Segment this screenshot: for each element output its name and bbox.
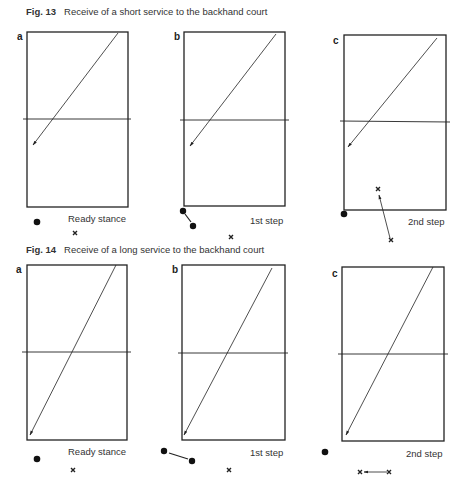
court-half <box>27 265 127 440</box>
player-start <box>161 448 167 454</box>
shuttle-arrow <box>30 265 116 435</box>
shuttle-arrow <box>33 33 118 145</box>
fig-14-panel-b <box>161 265 288 472</box>
court-half <box>344 35 446 210</box>
opponent-x-icon <box>376 187 380 191</box>
player-start <box>180 208 186 214</box>
fig-14-panel-c <box>322 267 448 474</box>
player-position <box>322 449 329 456</box>
opponent-x-icon <box>387 470 391 474</box>
opponent-x-icon <box>71 468 75 472</box>
opponent-x-icon <box>229 235 233 239</box>
player-position <box>34 219 41 226</box>
step-arrow <box>185 214 191 222</box>
fig-13-panel-c <box>340 35 450 242</box>
opponent-x-icon <box>73 231 77 235</box>
fig-13-panel-b <box>180 32 289 239</box>
fig-13-panel-a <box>23 32 131 235</box>
court-half <box>27 32 128 207</box>
court-half <box>182 265 285 440</box>
net-line <box>340 121 450 122</box>
shuttle-arrow <box>348 38 437 147</box>
player-end <box>190 223 196 229</box>
opponent-x-icon <box>389 238 393 242</box>
player-position <box>341 211 348 218</box>
player-position <box>34 456 41 463</box>
opponent-x-icon <box>358 470 362 474</box>
shuttle-arrow <box>346 267 433 435</box>
fig-14-panel-a <box>22 265 131 472</box>
step-arrow <box>169 453 188 459</box>
movement-arrow <box>379 195 390 238</box>
opponent-x-icon <box>227 468 231 472</box>
shuttle-arrow <box>184 268 272 435</box>
court-diagrams <box>0 0 463 481</box>
shuttle-arrow <box>190 34 276 146</box>
court-half <box>184 32 285 206</box>
player-end <box>189 458 195 464</box>
